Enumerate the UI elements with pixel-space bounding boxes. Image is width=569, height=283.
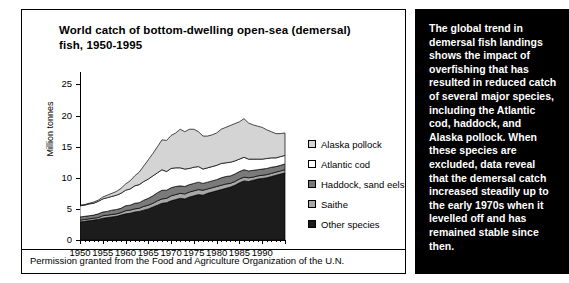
legend-label: Other species <box>321 219 380 230</box>
legend-item: Haddock, sand eels <box>308 174 428 194</box>
legend-item: Other species <box>308 214 428 234</box>
legend-swatch-icon <box>308 200 316 208</box>
plot-area: Million tonnes 0510152025 19501955196019… <box>22 62 407 248</box>
legend-swatch-icon <box>308 220 316 228</box>
legend-item: Atlantic cod <box>308 154 428 174</box>
legend-label: Atlantic cod <box>321 159 370 170</box>
legend-swatch-icon <box>308 140 316 148</box>
chart-card: World catch of bottom-dwelling open-sea … <box>21 9 406 274</box>
attribution-text: Permission granted from the Food and Agr… <box>30 255 344 266</box>
chart-legend: Alaska pollockAtlantic codHaddock, sand … <box>308 134 428 234</box>
page-title: World catch of bottom-dwelling open-sea … <box>59 23 359 52</box>
stacked-area-plot <box>80 72 286 241</box>
y-tick-label: 25 <box>50 79 72 88</box>
legend-swatch-icon <box>308 160 316 168</box>
legend-label: Alaska pollock <box>321 139 382 150</box>
legend-label: Saithe <box>321 199 348 210</box>
y-tick-label: 10 <box>50 173 72 182</box>
legend-item: Saithe <box>308 194 428 214</box>
y-tick-label: 0 <box>50 235 72 244</box>
footer-divider <box>22 249 405 250</box>
commentary-panel: The global trend in demersal fish landin… <box>415 9 569 274</box>
y-tick-label: 20 <box>50 111 72 120</box>
commentary-text: The global trend in demersal fish landin… <box>429 22 557 253</box>
y-tick-label: 5 <box>50 204 72 213</box>
screenshot-root: World catch of bottom-dwelling open-sea … <box>0 0 569 283</box>
y-axis-title: Million tonnes <box>45 79 55 179</box>
legend-swatch-icon <box>308 180 316 188</box>
legend-item: Alaska pollock <box>308 134 428 154</box>
y-tick-label: 15 <box>50 142 72 151</box>
legend-label: Haddock, sand eels <box>321 179 404 190</box>
